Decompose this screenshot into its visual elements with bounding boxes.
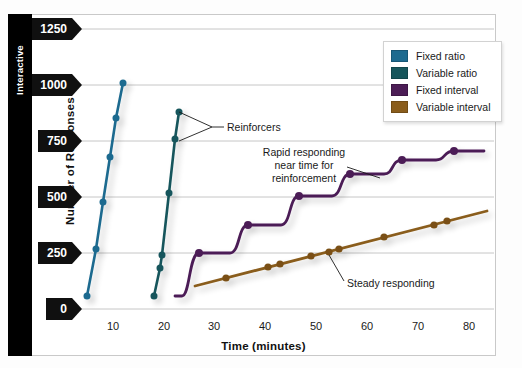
series-variable-ratio [151,109,183,300]
svg-text:80: 80 [463,320,475,332]
y-tick-1250: 1250 [32,18,82,40]
legend: Fixed ratio Variable ratio Fixed interva… [383,41,502,122]
svg-text:20: 20 [158,320,170,332]
annotation-reinforcers: Reinforcers [179,112,281,141]
legend-swatch-variable-interval [391,101,408,113]
legend-item-variable-ratio[interactable]: Variable ratio [391,64,491,81]
y-tick-250: 250 [38,242,82,264]
y-tick-labels: 1250 1000 750 500 250 [32,18,82,320]
data-point [398,156,406,164]
svg-text:40: 40 [259,320,271,332]
legend-label-variable-interval: Variable interval [416,101,491,113]
interactive-rail: Interactive [8,14,32,356]
annotation-rapid-responding: Rapid responding near time for reinforce… [263,146,380,184]
y-tick-750: 750 [38,130,82,152]
svg-text:10: 10 [107,320,119,332]
legend-item-variable-interval[interactable]: Variable interval [391,98,491,115]
legend-swatch-variable-ratio [391,67,408,79]
data-point [325,248,332,255]
legend-swatch-fixed-ratio [391,50,408,62]
data-point [346,170,354,178]
data-point [244,221,252,229]
svg-text:50: 50 [310,320,322,332]
data-point [113,115,120,122]
annotation-steady-responding: Steady responding [329,255,435,289]
annotation-rapid-line1: Rapid responding [263,146,345,158]
data-point [107,154,114,161]
data-point [166,190,173,197]
data-point [84,293,91,300]
y-tick-1000: 1000 [32,74,82,96]
data-point [443,217,450,224]
plot-frame: Number of Responses Time (minutes) [32,14,496,356]
data-point [151,293,158,300]
data-point [335,245,342,252]
data-point [295,192,303,200]
x-tick-labels: 10 20 30 40 50 60 70 80 [107,320,475,332]
data-point [172,136,179,143]
data-point [93,246,100,253]
data-point [380,233,387,240]
data-point [276,260,283,267]
legend-label-variable-ratio: Variable ratio [416,67,477,79]
svg-text:750: 750 [47,134,67,148]
legend-item-fixed-ratio[interactable]: Fixed ratio [391,47,491,64]
annotation-rapid-line3: reinforcement [272,172,336,184]
data-point [157,265,164,272]
svg-text:250: 250 [47,246,67,260]
annotation-reinforcers-text: Reinforcers [227,121,281,133]
data-point [307,252,314,259]
legend-item-fixed-interval[interactable]: Fixed interval [391,81,491,98]
legend-label-fixed-interval: Fixed interval [416,84,478,96]
data-point [159,252,166,259]
svg-text:30: 30 [208,320,220,332]
svg-text:70: 70 [412,320,424,332]
svg-text:500: 500 [47,190,67,204]
interactive-rail-label: Interactive [8,27,32,113]
svg-text:60: 60 [361,320,373,332]
svg-text:1000: 1000 [40,78,67,92]
data-point [195,249,203,257]
y-tick-500: 500 [38,186,82,208]
y-tick-0: 0 [46,298,82,320]
chart-screenshot: Interactive Number of Responses Time (mi… [0,0,522,368]
series-fixed-ratio [84,80,127,300]
data-point [264,263,271,270]
data-point [100,199,107,206]
series-variable-interval [195,211,487,286]
data-point [450,147,458,155]
annotation-rapid-line2: near time for [275,159,334,171]
legend-label-fixed-ratio: Fixed ratio [416,50,465,62]
data-point [430,221,437,228]
legend-swatch-fixed-interval [391,84,408,96]
svg-text:1250: 1250 [40,22,67,36]
data-point [222,274,229,281]
svg-text:0: 0 [60,302,67,316]
data-point [120,80,127,87]
annotation-steady-text: Steady responding [347,277,435,289]
